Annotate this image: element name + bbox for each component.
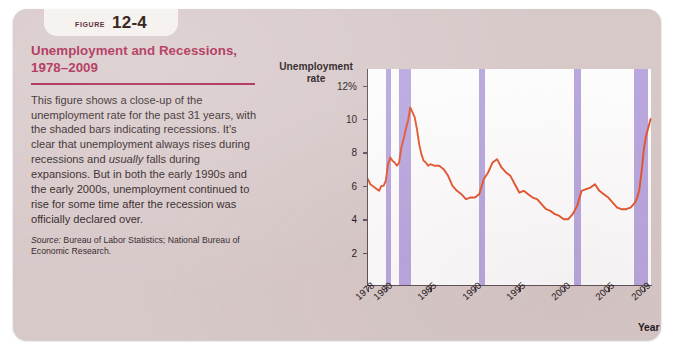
figure-source: Source: Bureau of Labor Statistics; Nati… xyxy=(31,235,253,258)
unemployment-line-series xyxy=(368,69,651,286)
figure-caption: This figure shows a close-up of the unem… xyxy=(31,93,257,227)
source-label: Source: xyxy=(31,235,61,245)
y-axis-tick xyxy=(363,119,368,120)
figure-title: Unemployment and Recessions, 1978–2009 xyxy=(31,43,263,76)
y-axis-tick-label: 4 xyxy=(321,214,357,225)
figure-number: 12-4 xyxy=(112,13,147,33)
caption-emphasis: usually xyxy=(109,153,144,165)
x-axis-title: Year xyxy=(638,322,660,333)
source-text: Bureau of Labor Statistics; National Bur… xyxy=(31,235,240,256)
y-axis-tick xyxy=(363,219,368,220)
figure-label: Figure xyxy=(75,17,105,29)
y-axis-tick-label: 8 xyxy=(321,147,357,158)
y-axis-tick xyxy=(363,152,368,153)
plot-area xyxy=(368,69,651,286)
figure-panel: Figure 12-4 Unemployment and Recessions,… xyxy=(13,9,661,340)
y-axis-tick-label: 2 xyxy=(321,247,357,258)
y-axis-tick xyxy=(363,86,368,87)
y-axis-tick-label: 6 xyxy=(321,180,357,191)
chart-container: Unemployment rate 24681012%1978198019851… xyxy=(271,57,656,347)
figure-text-column: Unemployment and Recessions, 1978–2009 T… xyxy=(31,43,263,258)
title-divider xyxy=(31,83,255,85)
figure-number-tab: Figure 12-4 xyxy=(44,9,178,36)
y-axis-tick xyxy=(363,186,368,187)
y-axis-tick-label: 12% xyxy=(321,80,357,91)
y-axis-tick xyxy=(363,253,368,254)
y-axis-tick-label: 10 xyxy=(321,114,357,125)
